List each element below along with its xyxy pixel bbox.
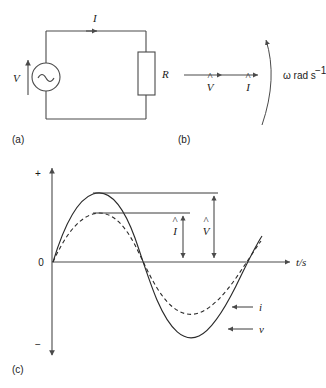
- legend-i: i: [232, 301, 262, 313]
- y-tick-plus: +: [35, 168, 41, 179]
- panel-b-phasor: ^ V ^ I ω rad s −1 (b): [178, 40, 326, 145]
- ac-source-icon: [32, 63, 60, 91]
- annotation-v-amplitude: ^ V: [93, 193, 218, 258]
- physics-figure-svg: V I R (a) ^: [0, 0, 326, 388]
- figure-root: V I R (a) ^: [0, 0, 326, 388]
- y-tick-zero: 0: [38, 257, 44, 268]
- panel-c-graph: + 0 − t/s ^ V ^ I: [12, 168, 306, 375]
- panel-a-circuit: V I R (a): [12, 12, 169, 145]
- sine-glyph: [38, 75, 54, 82]
- legend-v: v: [228, 323, 264, 335]
- phasor-current-label: ^ I: [245, 70, 251, 93]
- legend-v-label: v: [259, 323, 264, 335]
- legend-i-label: i: [259, 301, 262, 313]
- panel-label-c: (c): [12, 364, 24, 375]
- resistor-symbol: [138, 52, 155, 95]
- omega-label: ω rad s −1: [283, 65, 326, 81]
- resistor-label: R: [161, 68, 169, 80]
- omega-text: ω rad s: [283, 70, 316, 81]
- panel-label-b: (b): [178, 134, 190, 145]
- phasor-current-letter: I: [245, 81, 251, 93]
- rotation-arc-icon: [262, 40, 271, 125]
- i-amplitude-label: I: [172, 225, 178, 237]
- phasor-voltage-letter: V: [207, 81, 215, 93]
- panel-label-a: (a): [12, 134, 24, 145]
- y-tick-minus: −: [35, 339, 41, 350]
- source-voltage-label: V: [13, 72, 21, 84]
- omega-exponent: −1: [315, 65, 326, 76]
- circuit-loop-wires: [46, 31, 146, 119]
- x-axis-label: t/s: [296, 256, 306, 268]
- current-label: I: [92, 12, 98, 24]
- phasor-voltage-label: ^ V: [207, 70, 215, 93]
- series-curve-v: [53, 193, 262, 338]
- annotation-i-amplitude: ^ I: [93, 213, 190, 258]
- v-amplitude-label: V: [203, 225, 211, 237]
